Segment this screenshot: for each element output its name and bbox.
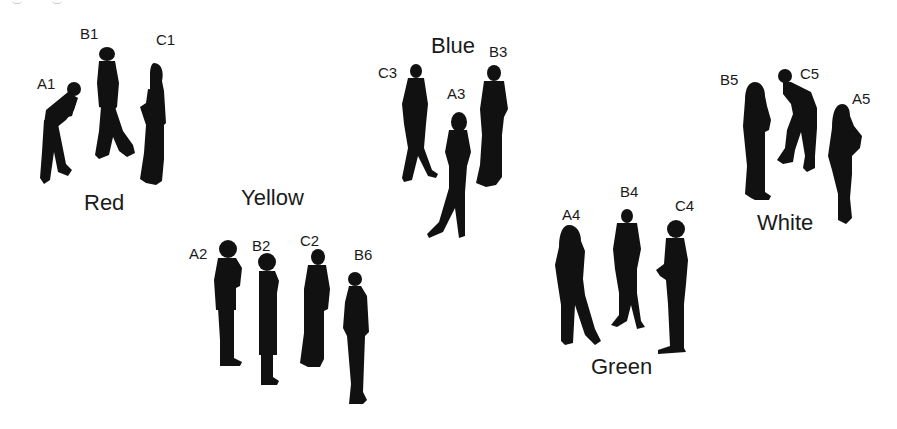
- person-label-c1: C1: [156, 32, 175, 47]
- person-silhouette-b1: [93, 47, 138, 163]
- crop-mark: [12, 0, 22, 4]
- group-label-blue: Blue: [431, 35, 475, 57]
- person-label-b3: B3: [489, 44, 507, 59]
- person-silhouette-b4: [609, 209, 647, 333]
- person-silhouette-b6: [343, 272, 371, 406]
- person-silhouette-a1: [38, 80, 86, 186]
- group-label-white: White: [757, 212, 813, 234]
- person-silhouette-b3: [474, 65, 510, 189]
- group-label-green: Green: [591, 356, 652, 378]
- person-label-b1: B1: [80, 26, 98, 41]
- person-silhouette-a4: [555, 225, 603, 349]
- person-silhouette-a3: [425, 112, 475, 240]
- person-label-c3: C3: [378, 65, 397, 80]
- crop-mark: [52, 0, 62, 4]
- person-silhouette-c4: [656, 220, 690, 356]
- person-label-a3: A3: [447, 86, 465, 101]
- person-label-b5: B5: [720, 72, 738, 87]
- person-label-b4: B4: [620, 184, 638, 199]
- person-label-c4: C4: [675, 198, 694, 213]
- person-label-a4: A4: [562, 207, 580, 222]
- person-silhouette-c1: [138, 63, 168, 187]
- person-silhouette-b2: [255, 253, 283, 387]
- person-silhouette-b5: [741, 82, 773, 204]
- person-silhouette-c5: [777, 68, 825, 176]
- person-silhouette-c2: [298, 249, 332, 371]
- person-label-a2: A2: [189, 246, 207, 261]
- group-label-red: Red: [84, 192, 124, 214]
- person-label-c2: C2: [300, 233, 319, 248]
- person-silhouette-a2: [212, 240, 244, 368]
- group-label-yellow: Yellow: [241, 187, 304, 209]
- people-groups-diagram: A1 B1 C1 R: [0, 0, 897, 429]
- person-label-b6: B6: [354, 247, 372, 262]
- person-label-b2: B2: [252, 238, 270, 253]
- person-silhouette-a5: [828, 104, 864, 226]
